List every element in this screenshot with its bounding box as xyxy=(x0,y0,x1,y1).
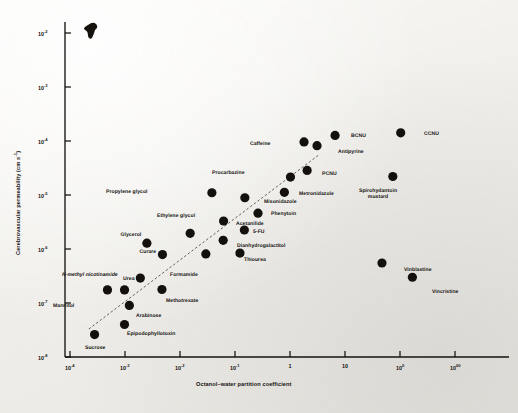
point-label: N-methyl nicotinamide xyxy=(62,272,118,278)
point-label: Epipodophyllotoxin xyxy=(127,331,175,337)
data-point xyxy=(186,229,195,238)
data-point xyxy=(253,209,262,218)
point-label: Caffeine xyxy=(250,141,271,147)
x-tick-label: 1000 xyxy=(450,363,460,371)
point-label: Antipyrine xyxy=(338,149,364,155)
x-tick-label: 10-2 xyxy=(175,363,185,371)
point-label: Misonidazole xyxy=(264,199,297,205)
data-point xyxy=(219,236,228,245)
point-label: Ethylene glycol xyxy=(157,213,195,219)
point-label: Metronidazole xyxy=(299,191,334,197)
data-point xyxy=(388,172,397,181)
data-point xyxy=(142,239,151,248)
data-point xyxy=(201,249,210,258)
data-point xyxy=(120,320,129,329)
x-tick-label: 10-3 xyxy=(120,363,130,371)
data-point xyxy=(303,166,312,175)
regression-dashed-line xyxy=(89,155,319,329)
y-axis-title-text: Cerebrovascular permeability (cm s xyxy=(15,157,21,255)
x-tick-label: 100 xyxy=(396,363,404,371)
x-tick-label: 10-4 xyxy=(65,363,75,371)
x-tick-label: 10 xyxy=(342,363,348,369)
data-point xyxy=(158,250,167,259)
y-axis-title: Cerebrovascular permeability (cm s-1) xyxy=(13,151,21,255)
y-axis-title-exponent: -1 xyxy=(13,153,18,157)
point-label: PCNU xyxy=(322,171,337,177)
y-tick-label: 10-8 xyxy=(38,353,48,361)
point-label: Procarbazine xyxy=(212,170,245,176)
point-label: Formamide xyxy=(170,272,198,278)
y-tick-label: 10-4 xyxy=(38,137,48,145)
data-point xyxy=(219,216,228,225)
data-point xyxy=(299,137,308,146)
point-label: Sucrose xyxy=(85,345,105,351)
point-label: Curare xyxy=(140,249,157,255)
data-point xyxy=(408,273,417,282)
point-label: Dianhydrogalactitol xyxy=(237,243,286,249)
data-point xyxy=(207,188,216,197)
point-label: 5-FU xyxy=(253,229,265,235)
y-tick-label: 10-3 xyxy=(38,83,48,91)
point-label: Vincristine xyxy=(432,289,459,295)
point-label: Glycerol xyxy=(121,232,142,238)
x-tick-label: 1 xyxy=(289,363,292,369)
x-axis-ticks xyxy=(70,351,455,357)
trend-line xyxy=(89,155,319,329)
y-tick-label: 10-6 xyxy=(38,245,48,253)
point-label: Thiourea xyxy=(244,257,266,263)
data-point xyxy=(312,141,321,150)
y-tick-label: 10-7 xyxy=(38,299,48,307)
point-label: Phenytoin xyxy=(271,211,296,217)
scatter-plot-figure xyxy=(0,0,518,413)
data-point xyxy=(120,285,129,294)
data-point xyxy=(240,193,249,202)
y-axis-title-paren: ) xyxy=(15,151,21,153)
point-label: BCNU xyxy=(351,133,366,139)
point-label: Urea xyxy=(123,276,135,282)
data-point xyxy=(157,285,166,294)
point-label: Vinblastine xyxy=(404,267,432,273)
data-point xyxy=(280,188,289,197)
data-point xyxy=(396,128,405,137)
data-point xyxy=(136,273,145,282)
point-label: Propylene glycol xyxy=(106,189,148,195)
data-point xyxy=(125,301,134,310)
x-axis-title: Octanol–water partition coefficient xyxy=(196,381,292,387)
point-label: Methotrexate xyxy=(166,298,198,304)
point-label: Mannitol xyxy=(53,303,74,309)
data-point xyxy=(377,258,386,267)
data-point xyxy=(286,172,295,181)
point-label: CCNU xyxy=(424,131,439,137)
x-tick-label: 10-1 xyxy=(230,363,240,371)
y-tick-label: 10-2 xyxy=(38,29,48,37)
data-point xyxy=(330,131,339,140)
point-label: Arabinose xyxy=(136,313,161,319)
y-tick-label: 10-5 xyxy=(38,191,48,199)
data-point xyxy=(103,285,112,294)
point-label: Acetanilide xyxy=(236,221,264,227)
ink-blot-artifact xyxy=(84,23,97,39)
point-label: Spirohydantoinmustard xyxy=(359,188,397,200)
data-point xyxy=(90,330,99,339)
